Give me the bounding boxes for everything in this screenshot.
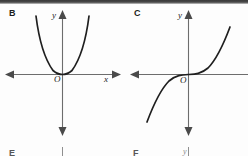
y-axis-label-b: y xyxy=(52,10,56,20)
x-axis-label-b: x xyxy=(104,74,108,84)
origin-label-b: O xyxy=(54,74,61,84)
x-axis-left-arrow-b xyxy=(5,71,14,79)
x-axis-left-arrow-c xyxy=(130,71,139,79)
graph-panel-c: C O y xyxy=(124,0,248,156)
clipped-panel-label-e: E xyxy=(9,148,15,156)
y-axis-down-arrow-b xyxy=(59,127,67,136)
y-axis-label-c: y xyxy=(178,10,182,20)
clipped-panel-label-f: F xyxy=(133,148,139,156)
clipped-bottom-row: E F y xyxy=(0,144,248,156)
clipped-y-axis-right xyxy=(188,147,189,156)
clipped-y-axis-left xyxy=(62,147,63,156)
x-axis-right-arrow-b xyxy=(112,71,121,79)
y-axis-up-arrow-b xyxy=(59,10,67,19)
graph-panel-b: B O x y xyxy=(0,0,124,156)
y-axis-down-arrow-c xyxy=(185,127,193,136)
y-axis-up-arrow-c xyxy=(185,10,193,19)
figure-page: B O x y C xyxy=(0,0,248,156)
clipped-y-axis-label-right: y xyxy=(183,147,187,156)
origin-label-c: O xyxy=(180,75,187,85)
